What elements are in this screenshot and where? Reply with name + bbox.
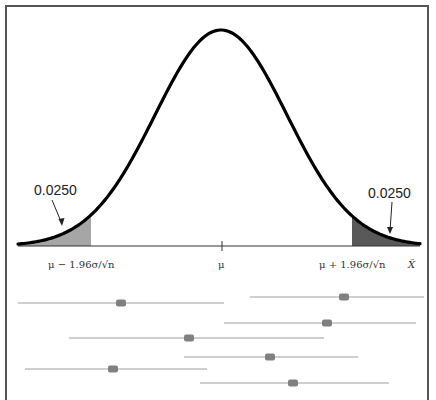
mean-label: μ [218, 259, 225, 270]
confidence-interval [200, 380, 389, 387]
left-tail-probability-label: 0.0250 [34, 182, 77, 198]
confidence-intervals [18, 294, 424, 387]
upper-bound-label: μ + 1.96σ/√n [319, 259, 386, 270]
sample-mean-marker [184, 335, 194, 342]
right-tail-arrow-icon [387, 202, 393, 234]
confidence-interval [224, 320, 416, 327]
left-tail-arrow-icon [52, 200, 65, 226]
right-tail-probability-label: 0.0250 [368, 185, 411, 201]
sample-mean-marker [108, 366, 118, 373]
confidence-interval [250, 294, 424, 301]
confidence-interval [69, 335, 324, 342]
normal-curve [18, 30, 420, 244]
confidence-interval [18, 300, 224, 307]
sample-mean-marker [116, 300, 126, 307]
sample-mean-marker [322, 320, 332, 327]
sample-mean-marker [288, 380, 298, 387]
sample-mean-marker [339, 294, 349, 301]
confidence-interval [25, 366, 207, 373]
confidence-interval [184, 354, 358, 361]
lower-bound-label: μ − 1.96σ/√n [48, 259, 115, 270]
sample-mean-marker [265, 354, 275, 361]
sample-mean-variable-label: X̄ [407, 259, 416, 270]
